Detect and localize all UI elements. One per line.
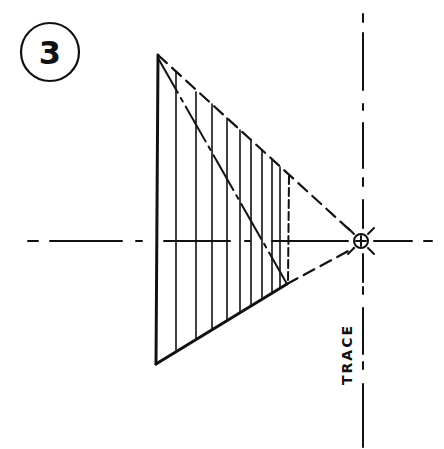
bottom-dashed-edge [287,248,354,284]
cone-projection-shape [156,55,354,364]
right-dashed-edge [288,176,289,282]
figure-number: 3 [39,34,61,72]
diagonal-line [158,58,287,284]
trace-label: TRACE [339,324,355,385]
diagram-canvas: 3 TRACE [0,0,444,449]
figure-number-badge: 3 [21,23,79,81]
top-dashed-edge [158,55,354,234]
vanishing-point-icon [348,228,374,254]
left-edge [156,55,158,364]
hatch-lines [176,72,280,350]
